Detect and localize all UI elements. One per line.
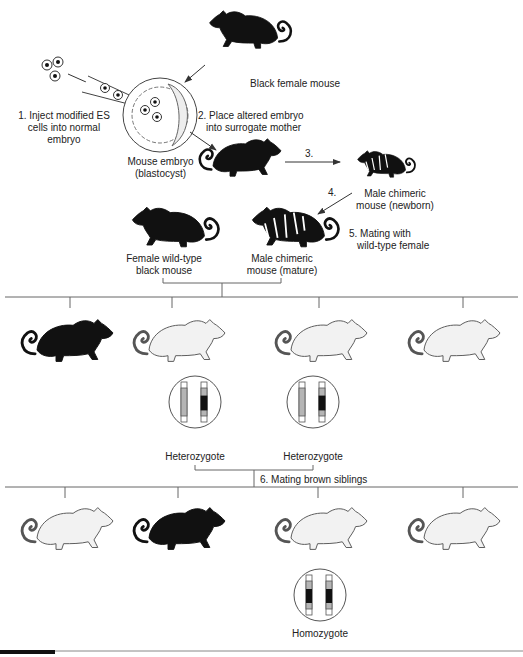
label-chimeric-newborn: Male chimeric mouse (newborn): [350, 188, 440, 212]
label-homozygote: Homozygote: [285, 628, 355, 640]
f1-mouse-brown-2: [276, 320, 367, 362]
label-black-female: Black female mouse: [250, 78, 340, 90]
blastocyst-icon: [123, 78, 197, 152]
f1-mouse-brown-3: [409, 320, 500, 362]
f2-mouse-brown-2: [276, 508, 367, 550]
heterozygote-chromosomes-2: [287, 376, 339, 428]
f1-mouse-black: [22, 320, 113, 362]
label-step2: 2. Place altered embryo into surrogate m…: [198, 110, 304, 134]
chimeric-newborn-mouse: [358, 151, 415, 177]
es-cells: [42, 57, 63, 81]
f2-mouse-brown-1: [22, 508, 113, 550]
male-chimeric-mature-mouse: [252, 207, 338, 247]
parents-cross-bracket: [5, 278, 518, 308]
knockout-mouse-diagram: Black female mouse 1. Inject modified ES…: [0, 0, 523, 657]
label-step3: 3.: [305, 148, 313, 160]
f1-mouse-brown-1: [134, 320, 225, 362]
diagram-graphics: [0, 0, 523, 657]
bottom-bar: [0, 650, 55, 654]
label-female-wildtype: Female wild-type black mouse: [120, 253, 208, 277]
female-wildtype-black-mouse: [132, 207, 218, 247]
label-step5: 5. Mating with wild-type female: [349, 228, 429, 252]
label-heterozygote-1: Heterozygote: [160, 451, 230, 463]
heterozygote-chromosomes-1: [169, 376, 221, 428]
label-heterozygote-2: Heterozygote: [278, 451, 348, 463]
label-step6: 6. Mating brown siblings: [260, 474, 367, 486]
homozygote-chromosomes: [294, 569, 346, 621]
label-step4: 4.: [328, 187, 336, 199]
black-female-mouse: [210, 11, 291, 48]
f2-mouse-black: [134, 508, 225, 550]
surrogate-mother-mouse: [200, 139, 281, 176]
label-embryo: Mouse embryo (blastocyst): [118, 156, 203, 180]
f2-mouse-brown-3: [409, 508, 500, 550]
label-chimeric-mature: Male chimeric mouse (mature): [242, 253, 322, 277]
label-step1: 1. Inject modified ES cells into normal …: [14, 110, 114, 146]
